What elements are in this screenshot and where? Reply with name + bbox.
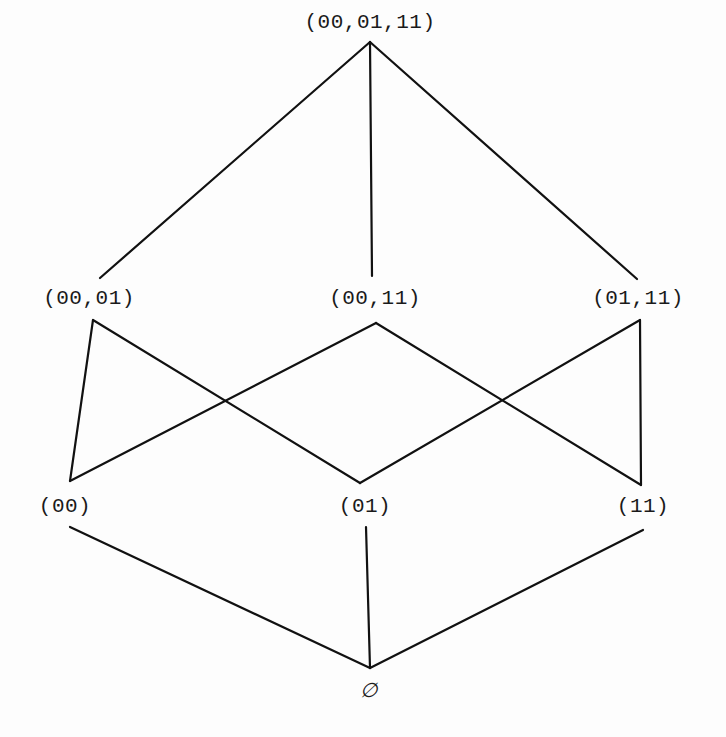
node-pair-00-11: (00,11): [329, 288, 421, 309]
edge-single_00-to-empty: [70, 527, 370, 668]
hasse-diagram: (00,01,11) (00,01) (00,11) (01,11) (00) …: [0, 0, 726, 737]
edge-pair_00_01-to-single_00: [70, 320, 93, 481]
edge-top-to-pair_00_11: [370, 42, 372, 276]
edge-single_11-to-empty: [370, 530, 643, 668]
edge-pair_00_11-to-single_11: [376, 323, 641, 485]
node-pair-00-01: (00,01): [43, 288, 135, 309]
edge-top-to-pair_00_01: [100, 42, 370, 278]
diagram-edges: [0, 0, 726, 737]
edge-group: [70, 42, 643, 668]
node-pair-01-11: (01,11): [592, 288, 684, 309]
edge-single_01-to-empty: [366, 527, 370, 668]
node-top: (00,01,11): [304, 12, 435, 33]
node-single-01: (01): [339, 496, 391, 517]
edge-pair_00_11-to-single_00: [70, 323, 376, 481]
edge-pair_01_11-to-single_11: [640, 320, 641, 485]
edge-pair_00_01-to-single_01: [93, 320, 360, 483]
edge-top-to-pair_01_11: [370, 42, 637, 279]
node-single-00: (00): [39, 496, 91, 517]
node-single-11: (11): [617, 496, 669, 517]
node-empty-set: ∅: [360, 680, 378, 700]
